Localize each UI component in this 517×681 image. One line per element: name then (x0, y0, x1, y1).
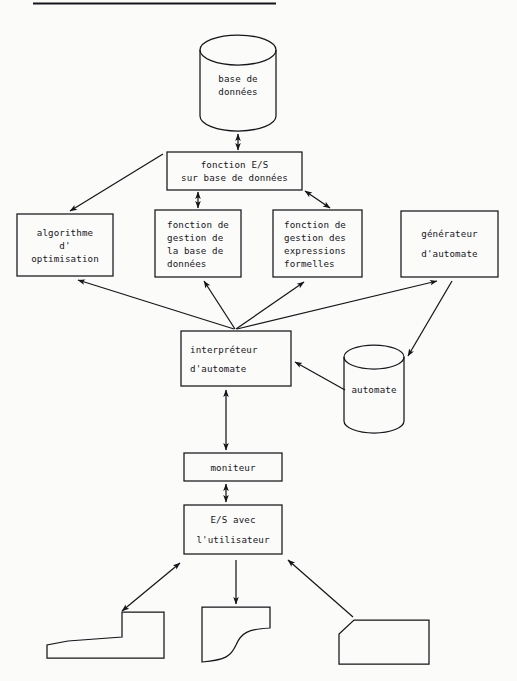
node-gestion-base-de-donnees (155, 210, 241, 277)
node-piece-centre (202, 607, 270, 662)
node-base-de-donnees (200, 35, 276, 131)
edge-interpreteur-generateur (237, 281, 437, 329)
edge-generateur-automate (408, 281, 452, 356)
edge-esutilisateur-piecegauche (122, 563, 180, 611)
edge-fonctiones-algorithme (70, 154, 163, 211)
node-fonction-es (167, 152, 302, 190)
node-generateur-automate (401, 211, 498, 277)
diagram-canvas (0, 0, 517, 681)
node-piece-gauche (47, 612, 164, 658)
node-automate (344, 345, 404, 433)
edge-fonctiones-expressions (305, 191, 330, 208)
node-piece-chamfer (339, 620, 429, 664)
edge-interpreteur-algorithme (78, 280, 234, 329)
node-moniteur (184, 453, 282, 481)
node-gestion-expressions-formelles (273, 210, 362, 277)
node-es-utilisateur (184, 505, 282, 554)
edge-piecedroite-esutilisateur (288, 560, 353, 617)
node-algorithme-optimisation (17, 214, 113, 276)
diagram-page: base de données fonction E/S sur base de… (0, 0, 517, 681)
node-interpreteur-automate (181, 331, 291, 386)
edge-interpreteur-expressions (236, 282, 304, 329)
edge-automate-interpreteur (295, 362, 345, 390)
edge-interpreteur-gestionbdd (204, 281, 235, 329)
